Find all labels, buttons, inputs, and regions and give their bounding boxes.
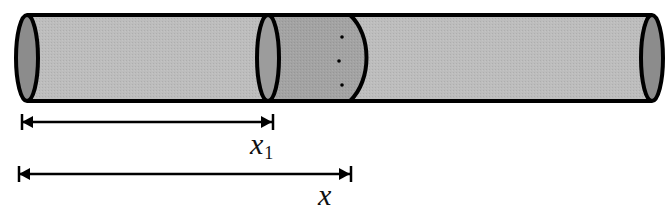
label-x: x (317, 178, 332, 211)
arrowhead-right-icon (339, 168, 350, 180)
tube-diagram: x1 x (0, 0, 671, 215)
slab-section (268, 15, 367, 101)
dimension-arrow-x (19, 166, 351, 182)
dot (340, 35, 344, 39)
left-end-cap (16, 15, 38, 101)
right-end-cap (641, 15, 663, 101)
dot (337, 59, 341, 63)
arrowhead-left-icon (22, 116, 33, 128)
middle-cross-section (257, 15, 279, 101)
label-x1: x1 (249, 127, 273, 163)
arrowhead-left-icon (19, 168, 30, 180)
dimension-arrow-x1 (22, 114, 273, 130)
dot (340, 83, 344, 87)
